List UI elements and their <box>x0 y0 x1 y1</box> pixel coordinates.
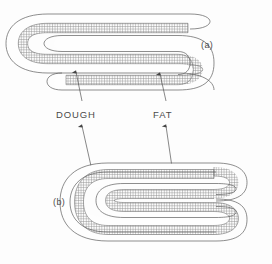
panel-a-tag: (a) <box>201 40 213 50</box>
fat-leader-down <box>166 126 172 167</box>
panel-b-label: (b) <box>53 197 65 207</box>
panel-b-tag: (b) <box>53 197 65 207</box>
panel-a-dough-shape <box>6 14 214 90</box>
figure-root: (a) DOUGH FAT <box>0 0 272 264</box>
panel-b-dough-shape <box>60 163 247 241</box>
panel-a-label: (a) <box>201 40 213 50</box>
fat-label: FAT <box>153 109 172 120</box>
dough-label: DOUGH <box>56 109 96 120</box>
laminated-dough-diagram: (a) DOUGH FAT <box>0 0 272 264</box>
dough-leader-down <box>82 126 91 166</box>
